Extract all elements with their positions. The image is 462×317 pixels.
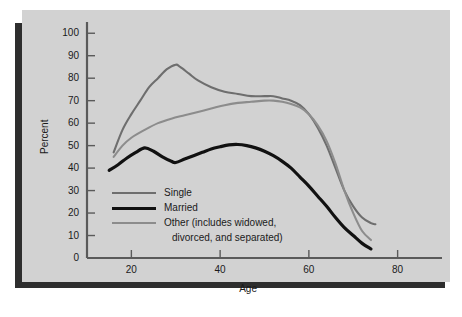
legend-label: Single [164,186,192,200]
y-axis-tick-label: 50 [55,141,79,151]
x-axis-tick-label: 20 [119,265,143,275]
y-axis-tick-label: 80 [55,73,79,83]
legend-item-continuation: divorced, and separated) [112,231,327,246]
plot-area: 0102030405060708090100 20406080 Percent … [22,10,450,282]
legend-item: Single [112,186,327,201]
legend-swatch [112,192,156,194]
y-axis-tick-label: 20 [55,208,79,218]
y-axis-tick-label: 100 [55,28,79,38]
legend-label: Other (includes widowed, [164,216,276,230]
y-axis-tick-label: 40 [55,163,79,173]
y-axis-title: Percent [40,120,50,154]
legend-item: Other (includes widowed, [112,216,327,231]
y-axis-tick-label: 0 [55,253,79,263]
legend-swatch [112,222,156,224]
legend-item: Married [112,201,327,216]
x-axis-tick-label: 80 [386,265,410,275]
y-axis-tick-label: 90 [55,51,79,61]
legend-label: Married [164,201,198,215]
figure-root: 0102030405060708090100 20406080 Percent … [0,0,462,317]
legend-swatch [112,207,156,210]
x-axis-title: Age [239,284,257,294]
chart-panel: 0102030405060708090100 20406080 Percent … [22,10,450,282]
y-axis-tick-label: 30 [55,186,79,196]
y-axis-tick-label: 10 [55,231,79,241]
y-axis-tick-label: 60 [55,118,79,128]
x-axis-tick-label: 40 [208,265,232,275]
legend-label-continuation: divorced, and separated) [172,231,283,245]
y-axis-tick-label: 70 [55,96,79,106]
x-axis-tick-label: 60 [297,265,321,275]
chart-legend: SingleMarriedOther (includes widowed,div… [112,186,327,246]
